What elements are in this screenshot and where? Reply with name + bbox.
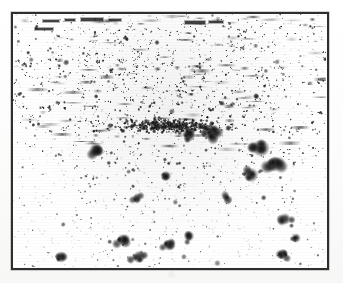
figure-root bbox=[0, 0, 343, 283]
plate-frame-border bbox=[11, 12, 329, 270]
speckle-canvas bbox=[13, 14, 326, 267]
speckle-field bbox=[13, 14, 327, 268]
